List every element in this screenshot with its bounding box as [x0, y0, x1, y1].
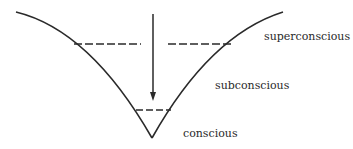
label-conscious: conscious — [183, 128, 238, 139]
consciousness-funnel-diagram — [0, 0, 353, 149]
label-superconscious: superconscious — [264, 31, 350, 42]
funnel-left-wall — [16, 12, 152, 138]
downward-arrow-head-icon — [150, 92, 156, 101]
label-subconscious: subconscious — [215, 80, 289, 91]
